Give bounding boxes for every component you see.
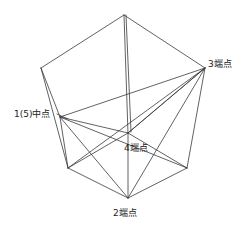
edge-node3-node4 [128,68,205,133]
edge-node1-node3 [60,68,205,117]
label-node-3: 3端点 [208,60,232,69]
edge-node1-node2 [60,117,128,198]
wireframe-figure: 3端点 1(5)中点 4端点 2端点 [0,0,248,226]
label-node-2: 2端点 [113,209,137,218]
node1-edges [60,68,205,198]
edge-apex-topright [124,15,205,68]
edge-node3-bottomleft [68,68,205,168]
edge-apex-backtop [126,15,131,132]
label-node-4: 4端点 [124,144,148,153]
edge-bottomleft-node2 [68,168,128,198]
edge-apex-topleft [41,15,124,68]
edge-apex-node4 [124,15,128,133]
bottom-face-edges [68,168,187,198]
label-node-1-5: 1(5)中点 [14,110,50,119]
